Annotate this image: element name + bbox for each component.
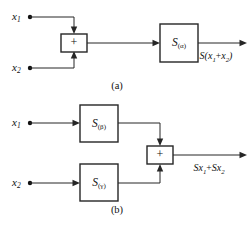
arrowhead-gamma-into-summer — [157, 164, 163, 172]
figure-root: x1 x2 + S(α) — [0, 0, 250, 227]
caption-a: (a) — [111, 80, 123, 92]
input-x2-label-b: x2 — [11, 176, 21, 190]
output-label-b: Sx1+Sx2 — [193, 162, 225, 174]
arrowhead-into-system-a — [153, 40, 161, 46]
arrowhead-into-system-gamma — [73, 180, 81, 186]
input-x1-label-b: x1 — [11, 116, 21, 130]
block-diagram-figure: x1 x2 + S(α) — [0, 0, 250, 227]
arrowhead-output-b — [240, 152, 248, 158]
arrowhead-x1-into-summer — [71, 27, 77, 35]
summing-junction-b-plus-symbol: + — [157, 147, 164, 161]
arrowhead-output-a — [240, 40, 248, 46]
summing-junction-a-plus-symbol: + — [71, 35, 78, 49]
wire-system-gamma-to-summer — [118, 170, 160, 183]
output-label-a: S(x1+x2) — [200, 50, 233, 62]
diagram-a: x1 x2 + S(α) — [11, 10, 247, 92]
caption-b: (b) — [111, 204, 124, 216]
input-x2-label: x2 — [11, 61, 21, 75]
arrowhead-into-system-beta — [73, 120, 81, 126]
wire-x1-to-summer — [30, 17, 74, 28]
input-x1-label: x1 — [11, 10, 21, 24]
arrowhead-beta-into-summer — [157, 139, 163, 147]
wire-x2-to-summer — [30, 57, 74, 68]
diagram-b: x1 S(β) x2 S(γ) — [11, 105, 247, 216]
wire-system-beta-to-summer — [118, 123, 160, 140]
